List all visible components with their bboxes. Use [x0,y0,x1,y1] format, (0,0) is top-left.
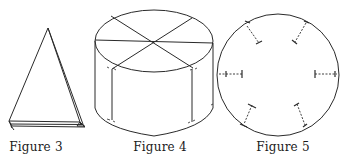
figure-5-drawing [217,14,339,136]
figure-4-caption: Figure 4 [133,140,186,154]
figure-3-caption: Figure 3 [9,140,62,154]
figure-4-drawing [95,10,213,136]
figure-3-drawing [9,28,85,130]
diagram-canvas [0,0,341,163]
figure-5-caption: Figure 5 [256,140,309,154]
